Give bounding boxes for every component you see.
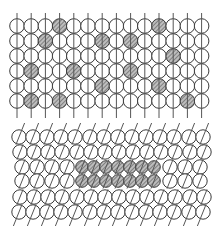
fiber-line: [41, 220, 44, 227]
fiber-line: [69, 220, 72, 227]
cells: [10, 19, 209, 109]
fiber-line: [135, 123, 138, 130]
top-panel: [10, 13, 209, 118]
fiber-line: [140, 220, 143, 227]
fiber-line: [112, 220, 115, 227]
fiber-line: [149, 123, 152, 130]
fiber-line: [192, 123, 195, 130]
fiber-line: [197, 220, 200, 227]
fiber-line: [50, 123, 53, 130]
fiber-line: [55, 220, 58, 227]
bottom-panel: [12, 123, 211, 226]
fiber-line: [183, 220, 186, 227]
fiber-line: [22, 123, 25, 130]
fiber-line: [154, 220, 157, 227]
fiber-line: [177, 123, 180, 130]
fiber-line: [107, 123, 110, 130]
fiber-line: [163, 123, 166, 130]
fiber-line: [206, 123, 209, 130]
fiber-line: [98, 220, 101, 227]
fiber-line: [93, 123, 96, 130]
fiber-line: [126, 220, 129, 227]
fiber-line: [13, 220, 16, 227]
lattice-diagram: [0, 0, 221, 235]
fiber-line: [168, 220, 171, 227]
cells: [12, 130, 211, 219]
fiber-line: [84, 220, 87, 227]
fiber-line: [27, 220, 30, 227]
fiber-line: [121, 123, 124, 130]
fiber-line: [78, 123, 81, 130]
fiber-line: [36, 123, 39, 130]
fiber-line: [64, 123, 67, 130]
